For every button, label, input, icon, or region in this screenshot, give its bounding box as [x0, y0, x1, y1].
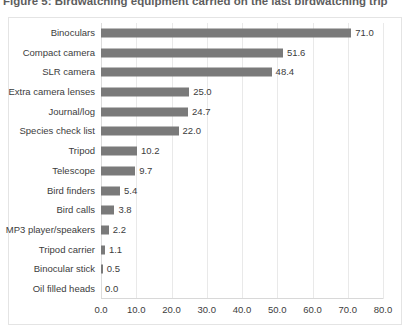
bar-row: SLR camera48.4 — [101, 62, 383, 82]
category-label: Oil filled heads — [33, 284, 95, 294]
bar — [101, 28, 351, 37]
bar-value-label: 51.6 — [287, 48, 306, 58]
bar — [101, 87, 189, 96]
bar-chart: Binoculars71.0Compact camera51.6SLR came… — [8, 17, 402, 325]
x-tick-label: 50.0 — [268, 305, 287, 315]
bar — [101, 166, 135, 175]
category-label: SLR camera — [42, 68, 95, 78]
bar — [101, 265, 103, 274]
category-label: Bird finders — [47, 186, 95, 196]
bar-value-label: 9.7 — [139, 166, 152, 176]
x-tick-label: 60.0 — [303, 305, 322, 315]
category-label: Telescope — [52, 166, 95, 176]
category-label: MP3 player/speakers — [6, 225, 95, 235]
bar-row: Journal/log24.7 — [101, 102, 383, 122]
bar — [101, 48, 283, 57]
category-label: Tripod — [68, 146, 95, 156]
bar-row: Binocular stick0.5 — [101, 260, 383, 280]
x-axis-baseline — [101, 298, 383, 299]
bar-row: Binoculars71.0 — [101, 23, 383, 43]
category-label: Extra camera lenses — [8, 87, 95, 97]
bar-value-label: 0.5 — [107, 265, 120, 275]
bar-row: Bird finders5.4 — [101, 181, 383, 201]
category-label: Bird calls — [56, 206, 95, 216]
bar-row: Compact camera51.6 — [101, 43, 383, 63]
bar-value-label: 71.0 — [355, 28, 374, 38]
bar — [101, 206, 114, 215]
bar-value-label: 0.0 — [105, 284, 118, 294]
gridline-80 — [383, 23, 384, 299]
x-tick-label: 0.0 — [94, 305, 107, 315]
bar — [101, 147, 137, 156]
bar-row: Tripod10.2 — [101, 141, 383, 161]
category-label: Binoculars — [51, 28, 95, 38]
plot-area: Binoculars71.0Compact camera51.6SLR came… — [101, 23, 383, 299]
bar-row: Telescope9.7 — [101, 161, 383, 181]
bar-value-label: 25.0 — [193, 87, 212, 97]
x-tick-label: 80.0 — [374, 305, 393, 315]
bar-row: Species check list22.0 — [101, 122, 383, 142]
bar-value-label: 24.7 — [192, 107, 211, 117]
bar-value-label: 10.2 — [141, 146, 160, 156]
bar-row: Oil filled heads0.0 — [101, 279, 383, 299]
category-label: Binocular stick — [34, 265, 95, 275]
category-label: Compact camera — [23, 48, 95, 58]
bar-row: Bird calls3.8 — [101, 200, 383, 220]
x-axis-tick-labels: 0.010.020.030.040.050.060.070.080.0 — [101, 305, 383, 321]
bar — [101, 225, 109, 234]
bar-value-label: 3.8 — [118, 206, 131, 216]
x-tick-label: 10.0 — [127, 305, 146, 315]
x-tick-label: 30.0 — [198, 305, 217, 315]
bar-value-label: 1.1 — [109, 245, 122, 255]
bar — [101, 186, 120, 195]
x-tick-label: 70.0 — [339, 305, 358, 315]
bar-row: Tripod carrier1.1 — [101, 240, 383, 260]
bar-value-label: 5.4 — [124, 186, 137, 196]
bar-row: Extra camera lenses25.0 — [101, 82, 383, 102]
figure-caption-container: Figure 5: Birdwatching equipment carried… — [0, 0, 410, 9]
bar — [101, 127, 179, 136]
category-label: Tripod carrier — [39, 245, 95, 255]
category-label: Journal/log — [49, 107, 95, 117]
figure-caption: Figure 5: Birdwatching equipment carried… — [3, 0, 388, 7]
category-label: Species check list — [19, 127, 95, 137]
bar-value-label: 22.0 — [183, 127, 202, 137]
x-tick-label: 40.0 — [233, 305, 252, 315]
bar — [101, 68, 272, 77]
bar — [101, 107, 188, 116]
bar-row: MP3 player/speakers2.2 — [101, 220, 383, 240]
x-tick-label: 20.0 — [162, 305, 181, 315]
bar-value-label: 2.2 — [113, 225, 126, 235]
bar — [101, 245, 105, 254]
bar-value-label: 48.4 — [276, 68, 295, 78]
